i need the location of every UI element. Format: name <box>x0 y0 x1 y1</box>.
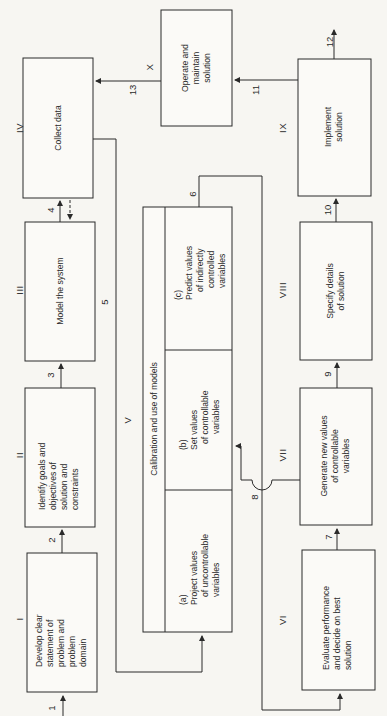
flow-5-label: 5 <box>99 299 110 304</box>
svg-text:5: 5 <box>99 299 110 304</box>
svg-text:III: III <box>14 285 25 294</box>
stage-IV-text: Collect data <box>53 105 63 151</box>
svg-text:of controllable: of controllable <box>330 429 340 483</box>
flow-9-label: 9 <box>322 371 333 376</box>
svg-text:statement of: statement of <box>45 619 55 667</box>
svg-text:variables: variables <box>211 563 221 597</box>
svg-text:2: 2 <box>46 537 57 542</box>
flow-3-label: 3 <box>45 372 56 377</box>
svg-text:Specify details: Specify details <box>325 263 335 318</box>
svg-text:II: II <box>14 452 25 458</box>
svg-text:objectives of: objectives of <box>48 462 58 510</box>
svg-text:VI: VI <box>277 615 288 625</box>
svg-text:solution and: solution and <box>59 463 69 510</box>
svg-text:Collect data: Collect data <box>53 105 63 151</box>
stage-V-text: Calibration and use of models <box>149 362 159 476</box>
flow-4-label: 4 <box>45 207 56 212</box>
flow-6-label: 6 <box>187 191 198 196</box>
flow-11-label: 11 <box>250 85 261 95</box>
flow-1-label: 1 <box>46 705 57 710</box>
svg-text:1: 1 <box>46 705 57 710</box>
svg-text:IX: IX <box>277 123 288 133</box>
svg-text:12: 12 <box>324 37 335 48</box>
svg-text:constraints: constraints <box>70 468 80 510</box>
svg-text:Generate new values: Generate new values <box>319 415 329 496</box>
svg-text:problem and: problem and <box>56 619 66 667</box>
svg-text:X: X <box>144 63 155 70</box>
stage-II-number: II <box>14 452 25 458</box>
svg-text:IV: IV <box>14 123 25 133</box>
stage-III-number: III <box>14 285 25 294</box>
svg-text:Develop clear: Develop clear <box>34 614 44 667</box>
svg-text:7: 7 <box>323 534 334 539</box>
svg-text:maintain: maintain <box>191 52 201 85</box>
svg-text:problem: problem <box>67 636 77 667</box>
svg-text:I: I <box>14 617 25 620</box>
svg-text:Set values: Set values <box>189 410 199 450</box>
stage-IV-number: IV <box>14 123 25 133</box>
svg-text:(c): (c) <box>173 290 183 300</box>
svg-text:3: 3 <box>45 372 56 377</box>
svg-text:of indirectly: of indirectly <box>195 248 205 292</box>
svg-text:controlled: controlled <box>206 251 216 288</box>
stage-X-number: X <box>144 63 155 70</box>
svg-text:of uncontrollable: of uncontrollable <box>200 534 210 597</box>
svg-text:Evaluate performance: Evaluate performance <box>321 586 331 670</box>
svg-text:of controllable: of controllable <box>200 390 210 444</box>
svg-text:9: 9 <box>322 371 333 376</box>
flow-10-label: 10 <box>322 205 333 216</box>
svg-text:Project values: Project values <box>189 551 199 605</box>
svg-text:domain: domain <box>78 639 88 667</box>
svg-text:and decide on best: and decide on best <box>332 597 342 670</box>
flow-12-label: 12 <box>324 37 335 48</box>
stage-III-text: Model the system <box>55 257 65 324</box>
svg-text:13: 13 <box>127 85 138 96</box>
flow-2-label: 2 <box>46 537 57 542</box>
svg-text:4: 4 <box>45 207 56 212</box>
svg-text:of solution: of solution <box>336 271 346 310</box>
svg-text:(a): (a) <box>178 594 188 605</box>
stage-I-number: I <box>14 617 25 620</box>
svg-text:6: 6 <box>187 191 198 196</box>
flow-13-label: 13 <box>127 85 138 96</box>
svg-text:VIII: VIII <box>277 282 288 298</box>
stage-VI-number: VI <box>277 615 288 625</box>
svg-text:VII: VII <box>277 448 288 461</box>
stage-IX-text: Implement solution <box>323 106 344 147</box>
svg-text:variables: variables <box>341 439 351 473</box>
svg-text:11: 11 <box>250 85 261 95</box>
stage-VIII-number: VIII <box>277 282 288 298</box>
svg-text:Identify goals and: Identify goals and <box>37 442 47 510</box>
svg-text:Operate and: Operate and <box>180 44 190 92</box>
stage-VII-number: VII <box>277 448 288 461</box>
svg-text:Model the system: Model the system <box>55 257 65 324</box>
svg-text:variables: variables <box>217 254 227 288</box>
flow-8-label: 8 <box>249 494 260 499</box>
svg-text:V: V <box>122 416 133 423</box>
stage-VIII-text: Specify details of solution <box>325 263 346 318</box>
flow-7-label: 7 <box>323 534 334 539</box>
svg-text:variables: variables <box>211 400 221 434</box>
stage-IX-number: IX <box>277 123 288 133</box>
svg-text:(b): (b) <box>178 439 188 450</box>
svg-text:10: 10 <box>322 205 333 216</box>
svg-text:Calibration and use of models: Calibration and use of models <box>149 362 159 476</box>
svg-text:Implement: Implement <box>323 106 333 147</box>
svg-text:solution: solution <box>343 640 353 670</box>
svg-text:8: 8 <box>249 494 260 499</box>
flowchart-diagram: Develop clear statement of problem and p… <box>0 0 387 716</box>
flow-8-arrow <box>236 446 300 490</box>
svg-text:Predict values: Predict values <box>184 246 194 300</box>
svg-text:solution: solution <box>334 112 344 142</box>
svg-text:solution: solution <box>202 53 212 83</box>
stage-V-number: V <box>122 416 133 423</box>
